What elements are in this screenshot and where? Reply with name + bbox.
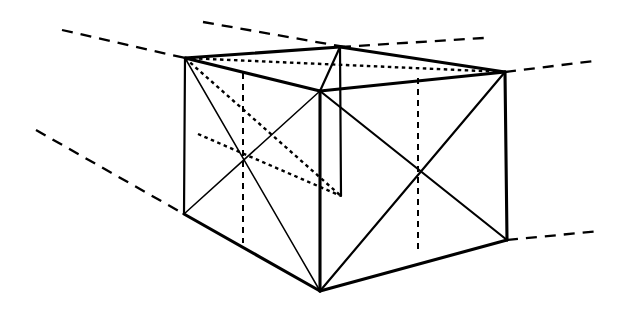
canvas-background	[0, 0, 631, 310]
left-vertical-edge	[184, 58, 185, 214]
hidden-edge-group	[340, 47, 341, 196]
back-vertical-edge	[340, 47, 341, 196]
cube-drawing-canvas	[0, 0, 631, 310]
right-vertical-edge	[505, 72, 507, 240]
perspective-cube-figure	[0, 0, 631, 310]
